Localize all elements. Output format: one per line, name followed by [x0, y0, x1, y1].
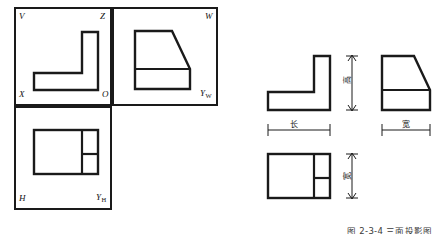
front-view-outline-in-v-plane	[14, 7, 112, 106]
axis-label-x: X	[19, 90, 25, 99]
axis-label-y-w: YW	[200, 89, 211, 98]
axis-label-y-w-sub: W	[206, 92, 212, 99]
axis-label-v: V	[19, 12, 25, 21]
axis-label-y-w-main: Y	[200, 88, 205, 98]
dimension-label-height: 高	[344, 76, 352, 84]
dimension-label-width-top: 宽	[344, 172, 352, 180]
projection-box: V Z W X O YW H YH	[0, 0, 226, 216]
figure-caption: 图 2-3-4 三面投影图	[347, 224, 433, 234]
axis-label-y-h-main: Y	[96, 192, 101, 202]
top-view-flat	[264, 150, 384, 230]
axis-label-h: H	[19, 194, 26, 203]
front-view-flat	[264, 52, 384, 142]
axis-label-w: W	[205, 12, 213, 21]
axis-label-z: Z	[100, 12, 105, 21]
dimension-label-width-side: 宽	[402, 121, 410, 129]
dimension-label-length: 长	[290, 121, 298, 129]
axis-label-y-h-sub: H	[102, 196, 107, 203]
axis-label-origin: O	[102, 90, 109, 99]
axis-label-y-h: YH	[96, 193, 106, 202]
flat-views-group: 高 长 宽 宽	[250, 0, 436, 234]
